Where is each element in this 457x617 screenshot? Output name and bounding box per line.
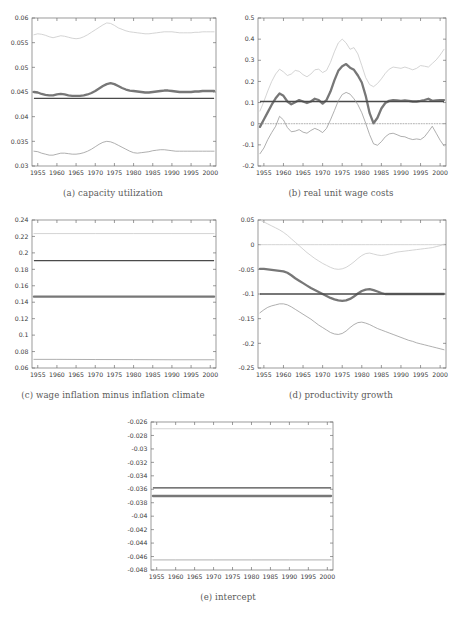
series-line xyxy=(34,141,214,155)
y-tick-label: -0.1 xyxy=(242,141,254,148)
y-tick-label: -0.028 xyxy=(128,432,148,439)
x-tick-label: 1995 xyxy=(183,371,199,378)
x-tick-label: 1990 xyxy=(393,169,409,176)
panel-a-plot: 0.030.0350.040.0450.050.0550.06195519601… xyxy=(2,10,224,188)
y-tick-label: 0.2 xyxy=(245,78,255,85)
x-tick-label: 1965 xyxy=(187,573,203,580)
series-line xyxy=(34,23,214,39)
panel-d-caption: (d) productivity growth xyxy=(228,390,454,400)
y-tick-label: -0.2 xyxy=(242,162,254,169)
x-tick-label: 1990 xyxy=(164,169,180,176)
y-tick-label: 0 xyxy=(251,241,255,248)
y-tick-label: 0.045 xyxy=(11,88,29,95)
x-tick-label: 1995 xyxy=(183,169,199,176)
panel-c-caption: (c) wage inflation minus inflation clima… xyxy=(2,390,224,400)
x-tick-label: 1980 xyxy=(126,371,142,378)
x-tick-label: 1965 xyxy=(295,371,311,378)
panel-a: 0.030.0350.040.0450.050.0550.06195519601… xyxy=(2,10,224,198)
y-tick-label: 0.16 xyxy=(15,282,29,289)
series-line xyxy=(260,304,444,350)
y-tick-label: 0.08 xyxy=(15,348,29,355)
x-tick-label: 1955 xyxy=(256,169,272,176)
x-tick-label: 1960 xyxy=(168,573,184,580)
plot-frame xyxy=(32,220,216,368)
y-tick-label: 0.22 xyxy=(15,233,29,240)
x-tick-label: 1975 xyxy=(334,371,350,378)
y-tick-label: 0.1 xyxy=(19,331,29,338)
panel-c-axes: 0.060.080.10.120.140.160.180.20.220.2419… xyxy=(2,212,224,390)
y-tick-label: 0.18 xyxy=(15,266,29,273)
y-tick-label: 0.05 xyxy=(15,64,29,71)
x-tick-label: 1965 xyxy=(68,371,84,378)
panel-a-caption: (a) capacity utilization xyxy=(2,188,224,198)
x-tick-label: 1975 xyxy=(225,573,241,580)
x-tick-label: 1980 xyxy=(244,573,260,580)
x-tick-label: 1955 xyxy=(256,371,272,378)
x-tick-label: 2000 xyxy=(319,573,335,580)
y-tick-label: 0.055 xyxy=(11,39,29,46)
x-tick-label: 1980 xyxy=(354,371,370,378)
y-tick-label: -0.04 xyxy=(131,512,147,519)
x-tick-label: 1970 xyxy=(87,169,103,176)
x-tick-label: 1985 xyxy=(145,169,161,176)
y-tick-label: -0.032 xyxy=(128,459,148,466)
x-tick-label: 1985 xyxy=(145,371,161,378)
x-tick-label: 1955 xyxy=(30,371,46,378)
x-tick-label: 1960 xyxy=(276,169,292,176)
series-line xyxy=(260,269,444,301)
x-tick-label: 1975 xyxy=(107,371,123,378)
x-tick-label: 1980 xyxy=(354,169,370,176)
x-tick-label: 1995 xyxy=(300,573,316,580)
y-tick-label: -0.034 xyxy=(128,472,148,479)
panel-d-plot: -0.25-0.2-0.15-0.1-0.0500.05195519601965… xyxy=(228,212,454,390)
x-tick-label: 1970 xyxy=(206,573,222,580)
y-tick-label: -0.038 xyxy=(128,499,148,506)
y-tick-label: 0.1 xyxy=(245,99,255,106)
x-tick-label: 1985 xyxy=(263,573,279,580)
y-tick-label: 0.3 xyxy=(245,56,255,63)
y-tick-label: 0.04 xyxy=(15,113,29,120)
y-tick-label: -0.026 xyxy=(128,418,148,425)
y-tick-label: 0.14 xyxy=(15,298,29,305)
y-tick-label: 0.05 xyxy=(241,216,255,223)
panel-b-caption: (b) real unit wage costs xyxy=(228,188,454,198)
x-tick-label: 1985 xyxy=(374,371,390,378)
x-tick-label: 1965 xyxy=(68,169,84,176)
y-tick-label: -0.25 xyxy=(238,364,254,371)
y-tick-label: 0.2 xyxy=(19,249,29,256)
y-tick-label: -0.036 xyxy=(128,485,148,492)
y-tick-label: 0 xyxy=(251,120,255,127)
y-tick-label: -0.048 xyxy=(128,566,148,573)
panel-e-plot: -0.048-0.046-0.044-0.042-0.04-0.038-0.03… xyxy=(115,414,341,592)
x-tick-label: 1970 xyxy=(315,169,331,176)
x-tick-label: 2000 xyxy=(202,169,218,176)
y-tick-label: 0.5 xyxy=(245,14,255,21)
x-tick-label: 1990 xyxy=(393,371,409,378)
x-tick-label: 1995 xyxy=(413,169,429,176)
x-tick-label: 1980 xyxy=(126,169,142,176)
y-tick-label: -0.1 xyxy=(242,290,254,297)
y-tick-label: 0.24 xyxy=(15,216,29,223)
panel-c: 0.060.080.10.120.140.160.180.20.220.2419… xyxy=(2,212,224,400)
y-tick-label: -0.15 xyxy=(238,315,254,322)
y-tick-label: 0.06 xyxy=(15,14,29,21)
x-tick-label: 1995 xyxy=(413,371,429,378)
x-tick-label: 1960 xyxy=(49,371,65,378)
x-tick-label: 1960 xyxy=(276,371,292,378)
x-tick-label: 1990 xyxy=(282,573,298,580)
y-tick-label: 0.035 xyxy=(11,138,29,145)
panel-b-plot: -0.2-0.100.10.20.30.40.51955196019651970… xyxy=(228,10,454,188)
x-tick-label: 1955 xyxy=(149,573,165,580)
x-tick-label: 1970 xyxy=(87,371,103,378)
x-tick-label: 2000 xyxy=(432,371,448,378)
y-tick-label: -0.05 xyxy=(238,266,254,273)
panel-e-caption: (e) intercept xyxy=(115,592,341,602)
y-tick-label: 0.06 xyxy=(15,364,29,371)
x-tick-label: 1975 xyxy=(334,169,350,176)
y-tick-label: -0.044 xyxy=(128,539,148,546)
x-tick-label: 1970 xyxy=(315,371,331,378)
series-line xyxy=(34,83,214,96)
panel-e-axes: -0.048-0.046-0.044-0.042-0.04-0.038-0.03… xyxy=(115,414,341,592)
x-tick-label: 2000 xyxy=(432,169,448,176)
x-tick-label: 2000 xyxy=(202,371,218,378)
